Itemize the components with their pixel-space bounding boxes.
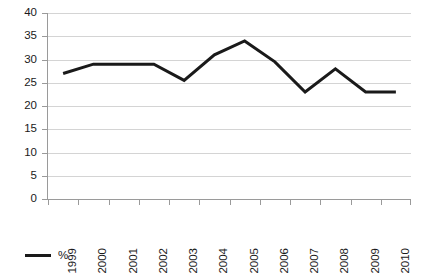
- x-label-2005: 2005: [249, 248, 261, 273]
- x-label-2008: 2008: [339, 248, 351, 273]
- x-label-2002: 2002: [158, 248, 170, 273]
- legend-label-percent: %: [58, 250, 68, 262]
- y-tick-label-0: 0: [31, 193, 37, 205]
- x-label-2006: 2006: [279, 248, 291, 273]
- x-label-2009: 2009: [370, 248, 382, 273]
- y-tick-label-40: 40: [24, 7, 37, 19]
- plot-area: 4035302520151050 19992000200120022003200…: [0, 0, 430, 273]
- x-label-2007: 2007: [309, 248, 321, 273]
- x-label-2003: 2003: [188, 248, 200, 273]
- y-tick-label-30: 30: [24, 54, 37, 66]
- x-label-2001: 2001: [128, 248, 140, 273]
- y-tick-label-25: 25: [24, 77, 37, 89]
- series-percent-line: [48, 0, 411, 210]
- y-tick-label-15: 15: [24, 124, 37, 136]
- chart-legend: %: [25, 250, 68, 262]
- y-tick-label-10: 10: [24, 147, 37, 159]
- line-chart: 4035302520151050 19992000200120022003200…: [0, 0, 430, 273]
- x-axis-category-labels: 1999200020012002200320042005200620072008…: [48, 206, 411, 250]
- legend-swatch-percent: [25, 254, 51, 257]
- x-label-2000: 2000: [97, 248, 109, 273]
- x-label-2010: 2010: [400, 248, 412, 273]
- x-label-1999: 1999: [67, 248, 79, 273]
- y-tick-label-5: 5: [31, 170, 37, 182]
- y-tick-label-20: 20: [24, 100, 37, 112]
- y-axis-tick-labels: 4035302520151050: [0, 0, 44, 210]
- x-label-2004: 2004: [218, 248, 230, 273]
- y-tick-label-35: 35: [24, 31, 37, 43]
